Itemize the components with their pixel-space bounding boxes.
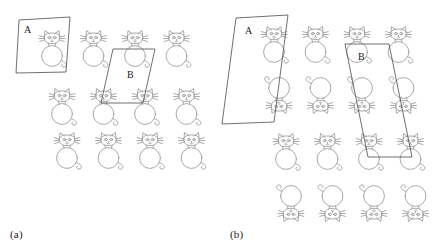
panel-b: A B [222,15,429,221]
panel-b-cats [261,27,429,222]
region-a-letter: A [24,24,32,35]
cat-glyph [174,89,201,126]
cat-glyph [179,133,206,170]
cat-glyph [386,27,413,64]
region-a-panel-b: A [222,15,288,124]
cat-glyph [54,133,81,170]
cat-glyph [137,133,164,170]
cat-glyph-flipped [306,77,333,114]
cat-glyph [303,27,330,64]
cat-glyph [164,31,191,68]
figure-svg: A B [0,0,447,250]
cat-glyph-flipped [389,77,416,114]
region-b-letter: B [127,69,134,80]
cat-glyph [315,134,342,171]
cat-glyph-flipped [265,77,292,114]
cat-glyph [132,89,159,126]
region-a-letter: A [245,25,253,36]
figure-canvas: A B [0,0,447,250]
cat-glyph [39,31,66,68]
cat-glyph-flipped [318,185,345,222]
panel-a: A B [16,17,206,169]
region-b-letter: B [358,51,365,62]
panel-caption-a: (a) [10,228,23,240]
cat-glyph-flipped [360,185,387,222]
panel-a-cats [39,31,206,170]
cat-glyph [273,134,300,171]
cat-glyph-flipped [348,77,375,114]
cat-glyph [49,89,76,126]
panel-caption-b: (b) [230,228,243,240]
cat-glyph [356,134,383,171]
cat-glyph [96,133,123,170]
cat-glyph-flipped [277,185,304,222]
cat-glyph [81,31,108,68]
cat-glyph [91,89,118,126]
cat-glyph-flipped [401,185,428,222]
